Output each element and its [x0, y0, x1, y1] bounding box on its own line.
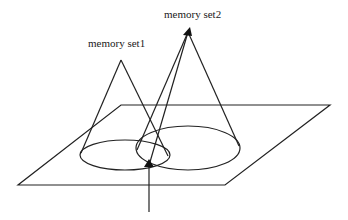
memory-set1-label: memory set1 — [88, 37, 145, 49]
set2-cone-left-edge — [137, 32, 188, 150]
diagram-svg — [0, 0, 348, 220]
set1-cone-left-edge — [81, 60, 121, 153]
set2-apex-arrowhead-icon — [183, 27, 192, 36]
diagram-canvas: memory set1 memory set2 — [0, 0, 348, 220]
plane-shape — [18, 105, 330, 185]
memory-set2-label: memory set2 — [164, 8, 221, 20]
set2-cone-inner-edge — [150, 32, 188, 162]
